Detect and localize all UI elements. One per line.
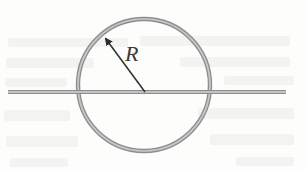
radius-label: R xyxy=(125,43,138,65)
circular-loop xyxy=(78,19,210,151)
diagram-canvas xyxy=(0,0,307,170)
loop-inner-highlight xyxy=(78,19,210,151)
physics-figure-circular-loop: R xyxy=(0,0,307,170)
